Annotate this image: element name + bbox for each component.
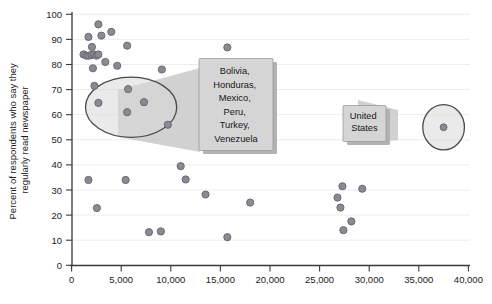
data-point [158, 66, 165, 73]
data-point [95, 21, 102, 28]
data-point [122, 176, 129, 183]
callout-box-united-states: United States [343, 106, 390, 146]
data-point [182, 176, 189, 183]
y-tick-label: 20 [51, 210, 62, 221]
x-ticks [72, 266, 469, 272]
y-tick-label: 10 [51, 235, 62, 246]
x-tick-labels: 0 5,000 10,000 15,000 20,000 25,000 30,0… [69, 274, 483, 285]
y-tick-label: 0 [57, 260, 62, 271]
data-point [125, 86, 132, 93]
x-tick-label: 15,000 [206, 274, 235, 285]
y-tick-label: 30 [51, 185, 62, 196]
y-axis: 100 90 80 70 60 50 40 30 20 10 0 Percent… [7, 9, 72, 271]
data-point-united-states [440, 124, 447, 131]
y-tick-label: 90 [51, 34, 62, 45]
data-point [224, 234, 231, 241]
x-axis: 0 5,000 10,000 15,000 20,000 25,000 30,0… [69, 266, 483, 286]
x-tick-label: 40,000 [454, 274, 483, 285]
data-point [339, 183, 346, 190]
y-tick-label: 80 [51, 59, 62, 70]
data-point [157, 228, 164, 235]
data-point [95, 99, 102, 106]
y-axis-title: Percent of respondents who say they regu… [7, 61, 30, 220]
y-tick-label: 100 [46, 9, 62, 20]
data-point [114, 62, 121, 69]
data-point [85, 33, 92, 40]
data-point [124, 42, 131, 49]
y-ticks [66, 14, 72, 265]
data-point [98, 32, 105, 39]
data-point [224, 44, 231, 51]
data-point [247, 199, 254, 206]
data-point [88, 43, 95, 50]
data-point [348, 218, 355, 225]
highlight-ellipse-cluster-1 [85, 77, 176, 137]
chart-canvas: 100 90 80 70 60 50 40 30 20 10 0 Percent… [0, 0, 492, 304]
callout-box-cluster-1: Bolivia, Honduras, Mexico, Peru, Turkey,… [199, 59, 277, 155]
data-point [85, 176, 92, 183]
scatter-chart: 100 90 80 70 60 50 40 30 20 10 0 Percent… [0, 0, 492, 304]
x-tick-label: 5,000 [109, 274, 133, 285]
y-tick-label: 70 [51, 84, 62, 95]
x-tick-label: 25,000 [305, 274, 334, 285]
data-point [124, 109, 131, 116]
data-point [334, 194, 341, 201]
data-point [89, 65, 96, 72]
data-point [102, 58, 109, 65]
x-tick-label: 20,000 [255, 274, 284, 285]
x-tick-label: 30,000 [355, 274, 384, 285]
data-point [177, 163, 184, 170]
data-point [340, 227, 347, 234]
data-point [91, 82, 98, 89]
data-point [145, 229, 152, 236]
data-point [95, 51, 102, 58]
data-point [359, 185, 366, 192]
y-tick-label: 40 [51, 159, 62, 170]
data-point [337, 204, 344, 211]
data-point [202, 191, 209, 198]
data-point [164, 121, 171, 128]
x-tick-label: 35,000 [404, 274, 433, 285]
y-tick-labels: 100 90 80 70 60 50 40 30 20 10 0 [46, 9, 62, 271]
data-point [108, 28, 115, 35]
y-tick-label: 50 [51, 134, 62, 145]
x-tick-label: 0 [69, 274, 74, 285]
data-point [93, 204, 100, 211]
y-tick-label: 60 [51, 109, 62, 120]
data-point [140, 99, 147, 106]
x-tick-label: 10,000 [156, 274, 185, 285]
